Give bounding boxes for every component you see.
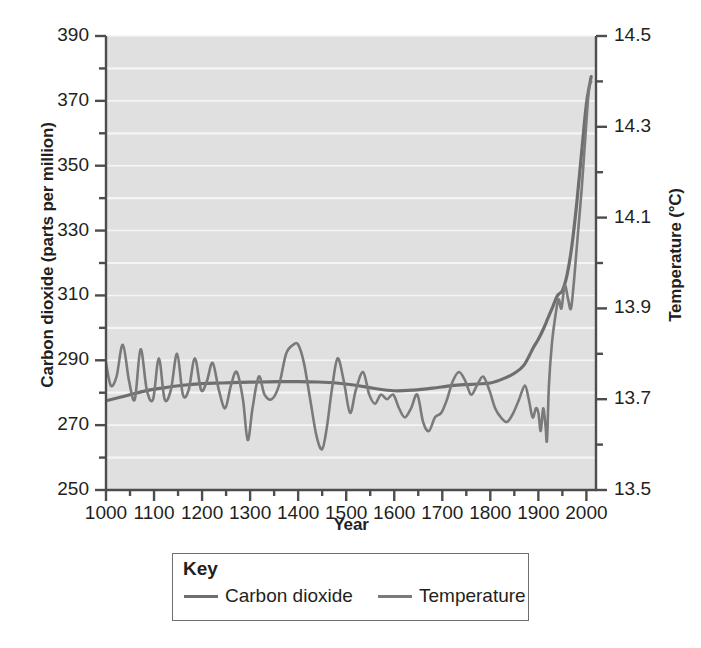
y-tick-label-left: 370 xyxy=(29,89,89,111)
y-tick-label-right: 13.7 xyxy=(614,387,674,409)
y-tick-label-right: 14.5 xyxy=(614,24,674,46)
y-tick-label-right: 13.9 xyxy=(614,296,674,318)
y-tick-label-left: 390 xyxy=(29,24,89,46)
legend-title: Key xyxy=(183,558,218,580)
y-tick-label-left: 250 xyxy=(29,478,89,500)
y-tick-label-right: 14.3 xyxy=(614,115,674,137)
y-tick-label-left: 310 xyxy=(29,283,89,305)
y-tick-label-left: 330 xyxy=(29,219,89,241)
y-tick-label-left: 350 xyxy=(29,154,89,176)
legend-swatch-carbon-dioxide xyxy=(184,595,218,598)
y-tick-label-left: 290 xyxy=(29,348,89,370)
legend-item-carbon-dioxide: Carbon dioxide xyxy=(184,585,353,607)
y-tick-label-right: 13.5 xyxy=(614,478,674,500)
y-tick-label-right: 14.1 xyxy=(614,206,674,228)
chart-legend: Key Carbon dioxide Temperature xyxy=(172,553,529,621)
legend-swatch-temperature xyxy=(378,595,412,598)
x-tick-label: 2000 xyxy=(551,502,621,524)
y-tick-label-left: 270 xyxy=(29,413,89,435)
legend-item-temperature: Temperature xyxy=(378,585,526,607)
chart-figure: Carbon dioxide (parts per million) Tempe… xyxy=(0,0,701,648)
legend-label-carbon-dioxide: Carbon dioxide xyxy=(225,585,353,607)
legend-label-temperature: Temperature xyxy=(419,585,526,607)
plot-area xyxy=(0,0,701,648)
